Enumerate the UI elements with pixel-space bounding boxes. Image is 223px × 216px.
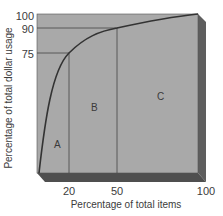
region-label-c: C <box>157 91 164 102</box>
y-axis-label: Percentage of total dollar usage <box>3 27 14 169</box>
x-tick-100: 100 <box>197 185 215 197</box>
x-tick-50: 50 <box>111 185 123 197</box>
y-tick-90: 90 <box>22 23 34 35</box>
x-axis-label: Percentage of total items <box>71 199 182 210</box>
plot-side-face <box>198 14 206 182</box>
y-tick-75: 75 <box>22 48 34 60</box>
region-label-a: A <box>54 139 61 150</box>
plot-area <box>37 14 198 173</box>
plot-bottom-face <box>37 173 206 182</box>
x-tick-20: 20 <box>63 185 75 197</box>
region-label-b: B <box>91 102 98 113</box>
abc-chart: A B C 100 90 75 20 50 100 Percentage of … <box>0 0 223 216</box>
y-tick-100: 100 <box>16 10 34 22</box>
